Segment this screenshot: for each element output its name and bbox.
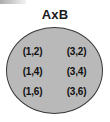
- ordered-pair: (3,6): [57, 86, 97, 97]
- ordered-pair: (1,6): [13, 86, 53, 97]
- pair-row: (1,6) (3,6): [6, 82, 103, 102]
- pair-row: (1,2) (3,2): [6, 42, 103, 62]
- ordered-pairs-grid: (1,2) (3,2) (1,4) (3,4) (1,6) (3,6): [6, 27, 103, 114]
- ordered-pair: (3,4): [57, 66, 97, 77]
- ordered-pair: (1,4): [13, 66, 53, 77]
- ordered-pair: (1,2): [13, 46, 53, 57]
- diagram-title: AxB: [0, 7, 110, 22]
- pair-row: (1,4) (3,4): [6, 62, 103, 82]
- ordered-pair: (3,2): [57, 46, 97, 57]
- cartesian-product-diagram: AxB (1,2) (3,2) (1,4) (3,4) (1,6) (3,6): [0, 0, 110, 122]
- scan-artifact: [0, 0, 26, 4]
